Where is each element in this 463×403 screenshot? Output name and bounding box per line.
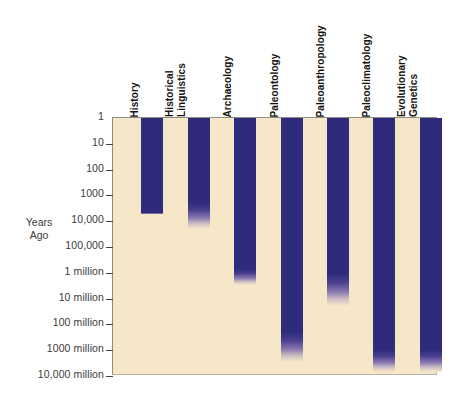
y-axis-tick-label: 100 bbox=[86, 162, 104, 174]
column-header: Paleoanthropology bbox=[326, 7, 348, 117]
y-axis-tick-label: 10,000 million bbox=[38, 368, 104, 380]
bar-fade-segment bbox=[188, 203, 210, 229]
column-header: Paleoclimatology bbox=[372, 7, 394, 117]
years-ago-discipline-range-chart: Years Ago 110100100010,000100,0001 milli… bbox=[0, 0, 463, 403]
y-axis-tick-label: 10 bbox=[92, 136, 104, 148]
y-axis-tick-mark bbox=[106, 299, 113, 300]
bar-fade-segment bbox=[281, 332, 303, 362]
y-axis-tick-mark bbox=[106, 324, 113, 325]
bar-solid-segment bbox=[281, 118, 303, 332]
column-header-label: Paleoanthropology bbox=[315, 25, 327, 117]
bar-solid-segment bbox=[234, 118, 256, 269]
bar-fade-segment bbox=[327, 273, 349, 307]
y-axis-tick-mark bbox=[106, 247, 113, 248]
bar bbox=[234, 118, 256, 285]
bar bbox=[420, 118, 442, 372]
y-axis-tick-labels: 110100100010,000100,0001 million10 milli… bbox=[0, 0, 104, 403]
bar-solid-segment bbox=[188, 118, 210, 203]
column-header: EvolutionaryGenetics bbox=[419, 7, 441, 117]
y-axis-tick-mark bbox=[106, 273, 113, 274]
column-header-label: History bbox=[129, 82, 141, 117]
bar-fade-segment bbox=[234, 269, 256, 285]
y-axis-tick-mark bbox=[106, 144, 113, 145]
column-header-label: Paleontology bbox=[269, 53, 281, 117]
column-header-label: HistoricalLinguistics bbox=[164, 63, 187, 117]
column-header-label: Archaeology bbox=[222, 55, 234, 117]
bar bbox=[281, 118, 303, 363]
y-axis-tick-label: 10,000 bbox=[71, 213, 104, 225]
y-axis-tick-label: 1 bbox=[98, 110, 104, 122]
bar bbox=[188, 118, 210, 229]
bar-fade-segment bbox=[420, 350, 442, 372]
y-axis-tick-mark bbox=[106, 376, 113, 377]
y-axis-tick-mark bbox=[106, 350, 113, 351]
y-axis-tick-label: 100,000 bbox=[65, 239, 104, 251]
column-header: Paleontology bbox=[280, 7, 302, 117]
bar-solid-segment bbox=[327, 118, 349, 273]
bar-solid-segment bbox=[420, 118, 442, 350]
y-axis-tick-mark bbox=[106, 195, 113, 196]
bar bbox=[373, 118, 395, 372]
column-header: Archaeology bbox=[233, 7, 255, 117]
plot-area bbox=[112, 117, 437, 375]
bar bbox=[327, 118, 349, 306]
y-axis-tick-label: 100 million bbox=[53, 316, 104, 328]
y-axis-tick-mark bbox=[106, 221, 113, 222]
bar-solid-segment bbox=[141, 118, 163, 213]
bar-fade-segment bbox=[373, 350, 395, 372]
bar bbox=[141, 118, 163, 215]
column-header-label: EvolutionaryGenetics bbox=[396, 55, 419, 117]
y-axis-tick-label: 1000 bbox=[80, 187, 104, 199]
y-axis-tick-label: 1 million bbox=[65, 265, 104, 277]
column-header-label: Paleoclimatology bbox=[361, 33, 373, 117]
y-axis-tick-label: 10 million bbox=[59, 291, 104, 303]
y-axis-tick-label: 1000 million bbox=[47, 342, 104, 354]
column-header: History bbox=[140, 7, 162, 117]
y-axis-tick-mark bbox=[106, 170, 113, 171]
bar-solid-segment bbox=[373, 118, 395, 350]
column-headers: HistoryHistoricalLinguisticsArchaeologyP… bbox=[112, 5, 437, 117]
bar-fade-segment bbox=[141, 213, 163, 214]
column-header: HistoricalLinguistics bbox=[187, 7, 209, 117]
